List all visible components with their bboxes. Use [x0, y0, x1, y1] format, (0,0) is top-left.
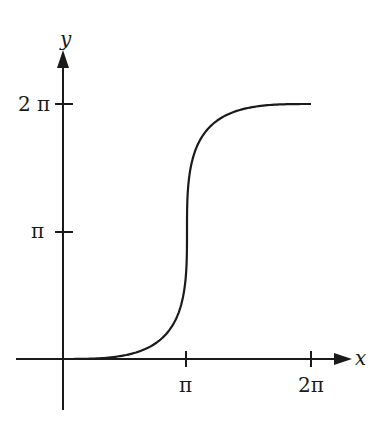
x-axis-label: x [355, 346, 366, 370]
y-axis-arrow-icon [57, 50, 69, 68]
x-tick-label-2pi: 2π [298, 373, 324, 397]
x-axis-arrow-icon [334, 353, 352, 365]
curve-line [63, 104, 311, 359]
y-tick-label-pi: π [31, 219, 44, 243]
chart: y x 2 π π π 2π [0, 0, 383, 431]
x-tick-label-pi: π [179, 373, 192, 397]
y-axis-label: y [59, 27, 72, 51]
y-tick-label-2pi: 2 π [18, 92, 50, 116]
